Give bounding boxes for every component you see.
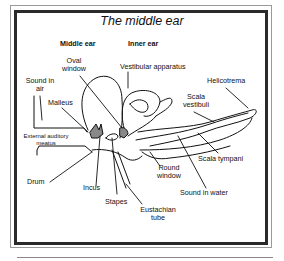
label-malleus: Malleus — [48, 99, 73, 107]
label-oval-window: Oval window — [56, 57, 92, 73]
label-scala-vestibuli: Scala vestibuli — [178, 93, 214, 109]
label-round-window: Round window — [152, 164, 186, 180]
label-sound-in-air: Sound in air — [22, 77, 58, 93]
ossicles — [90, 124, 128, 140]
diagram-title: The middle ear — [0, 14, 284, 28]
label-eustachian-tube: Eustachian tube — [136, 206, 180, 222]
cochlea — [136, 110, 256, 159]
label-external-auditory-meatus: External auditory meatus — [18, 133, 74, 147]
label-sound-in-water: Sound in water — [180, 189, 228, 197]
label-drum: Drum — [27, 178, 45, 186]
label-scala-tympani: Scala tympani — [198, 155, 243, 163]
label-vestibular-apparatus: Vestibular apparatus — [120, 63, 186, 71]
label-stapes: Stapes — [105, 198, 127, 206]
label-helicotrema: Helicotrema — [207, 77, 245, 85]
header-middle-ear: Middle ear — [60, 40, 96, 48]
label-incus: Incus — [83, 184, 100, 192]
membrane-lower — [92, 149, 142, 160]
header-inner-ear: Inner ear — [128, 40, 158, 48]
